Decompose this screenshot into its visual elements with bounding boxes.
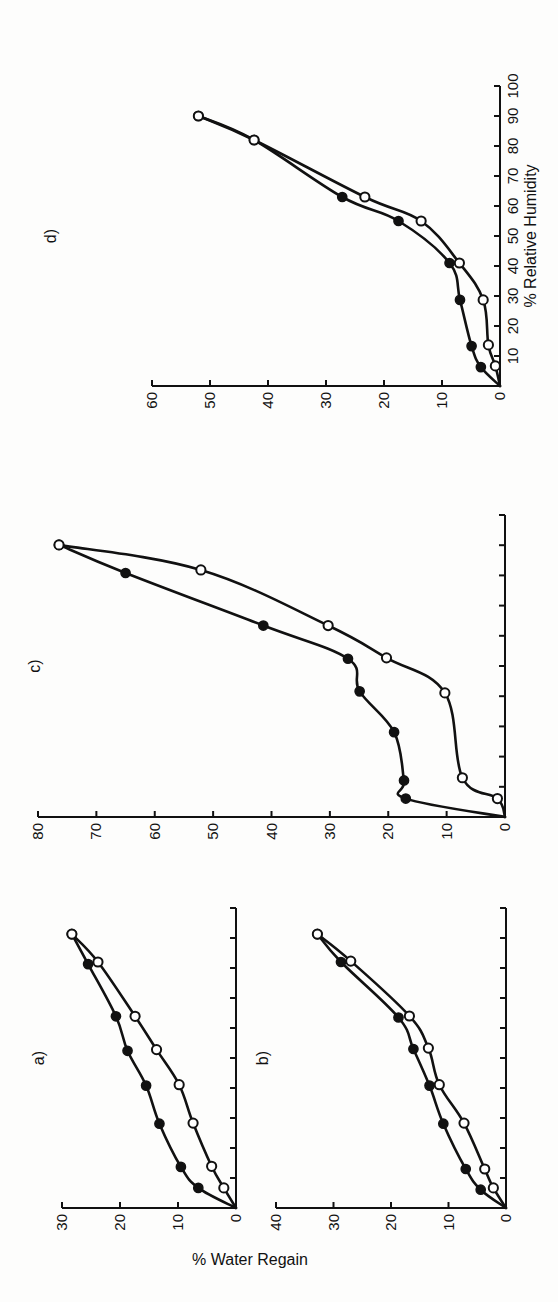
data-point-open (458, 773, 467, 782)
series-line-filled (317, 934, 506, 1208)
data-point-open (489, 1183, 498, 1192)
data-point-open (417, 216, 426, 225)
data-point-filled (425, 1081, 434, 1090)
y-tick-label: 80 (29, 823, 46, 840)
y-tick-label: 0 (227, 1214, 244, 1222)
series-line-open (198, 116, 500, 386)
data-point-open (382, 653, 391, 662)
y-tick-label: 40 (267, 1214, 284, 1231)
y-tick-label: 0 (497, 1214, 514, 1222)
data-point-filled (445, 258, 454, 267)
data-point-filled (338, 192, 347, 201)
data-point-filled (439, 1119, 448, 1128)
data-point-open (440, 688, 449, 697)
data-point-open (491, 361, 500, 370)
data-point-filled (401, 794, 410, 803)
y-tick-label: 60 (146, 823, 163, 840)
x-tick-label: 60 (504, 198, 521, 215)
data-point-filled (476, 362, 485, 371)
y-tick-label: 50 (204, 823, 221, 840)
x-tick-label: 40 (504, 258, 521, 275)
panel-label: c) (26, 659, 43, 672)
panel-d: 1020304050607080901000102030405060d) (42, 73, 521, 408)
x-tick-label: 80 (504, 138, 521, 155)
data-point-filled (394, 216, 403, 225)
data-point-open (493, 794, 502, 803)
data-point-open (130, 1012, 139, 1021)
x-tick-label: 10 (504, 348, 521, 365)
data-point-open (346, 957, 355, 966)
y-tick-label: 10 (438, 823, 455, 840)
data-point-filled (176, 1162, 185, 1171)
panel-label: a) (30, 1051, 47, 1065)
data-point-open (405, 1011, 414, 1020)
data-point-filled (142, 1081, 151, 1090)
y-tick-label: 60 (143, 392, 160, 409)
x-tick-label: 70 (504, 168, 521, 185)
data-point-filled (336, 957, 345, 966)
series-line-filled (59, 545, 505, 817)
data-point-filled (461, 1164, 470, 1173)
data-point-open (67, 930, 76, 939)
data-point-open (424, 1044, 433, 1053)
data-point-filled (389, 728, 398, 737)
data-point-open (459, 1119, 468, 1128)
panel-b: 010203040b) (254, 908, 514, 1231)
x-axis-label: % Relative Humidity (522, 164, 539, 307)
data-point-open (360, 192, 369, 201)
panel-label: b) (254, 1051, 271, 1065)
y-tick-label: 30 (53, 1214, 70, 1231)
data-point-filled (409, 1044, 418, 1053)
y-tick-label: 30 (321, 823, 338, 840)
data-point-filled (194, 1183, 203, 1192)
data-point-filled (467, 341, 476, 350)
y-tick-label: 20 (111, 1214, 128, 1231)
data-point-filled (259, 621, 268, 630)
data-point-open (249, 135, 258, 144)
data-point-open (196, 565, 205, 574)
data-point-open (54, 540, 63, 549)
panel-a: 0102030a) (30, 908, 244, 1231)
data-point-filled (394, 1013, 403, 1022)
data-point-open (188, 1119, 197, 1128)
y-tick-label: 10 (440, 1214, 457, 1231)
data-point-filled (121, 568, 130, 577)
data-point-open (480, 1164, 489, 1173)
series-line-open (59, 545, 505, 817)
data-point-open (207, 1162, 216, 1171)
y-tick-label: 10 (169, 1214, 186, 1231)
y-tick-label: 20 (375, 392, 392, 409)
data-point-open (479, 295, 488, 304)
data-point-filled (343, 654, 352, 663)
panel-label: d) (42, 229, 59, 243)
data-point-filled (399, 776, 408, 785)
data-point-open (455, 258, 464, 267)
data-point-filled (84, 960, 93, 969)
data-point-open (435, 1080, 444, 1089)
data-point-filled (155, 1119, 164, 1128)
data-point-open (324, 621, 333, 630)
x-tick-label: 30 (504, 288, 521, 305)
panel-c: 01020304050607080c) (26, 515, 513, 840)
x-tick-label: 50 (504, 228, 521, 245)
y-tick-label: 20 (379, 823, 396, 840)
y-tick-label: 70 (87, 823, 104, 840)
figure-page: 0102030a)010203040b)01020304050607080c)1… (0, 0, 558, 1302)
y-tick-label: 0 (496, 823, 513, 831)
y-tick-label: 30 (317, 392, 334, 409)
y-tick-label: 50 (201, 392, 218, 409)
data-point-filled (123, 1046, 132, 1055)
y-tick-label: 40 (259, 392, 276, 409)
x-tick-label: 90 (504, 108, 521, 125)
x-tick-label: 100 (504, 73, 521, 98)
data-point-open (152, 1045, 161, 1054)
data-point-open (194, 111, 203, 120)
data-point-filled (455, 295, 464, 304)
y-tick-label: 20 (382, 1214, 399, 1231)
series-line-open (317, 934, 506, 1208)
y-tick-label: 40 (263, 823, 280, 840)
y-tick-label: 10 (433, 392, 450, 409)
data-point-open (175, 1080, 184, 1089)
data-point-open (484, 340, 493, 349)
data-point-open (219, 1183, 228, 1192)
